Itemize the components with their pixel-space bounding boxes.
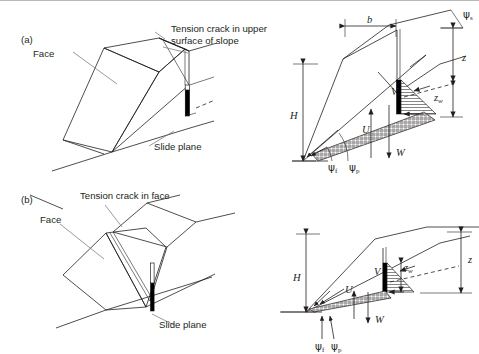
ground-line-left-a [63,140,104,154]
symbol-psi-p-a: ψp [349,161,360,175]
label-face-a: Face [33,48,54,59]
failure-surface-right-b [390,236,470,269]
label-slide-plane-b: Slide plane [159,319,206,330]
symbol-H-b: H [292,272,302,283]
z-extension-b [420,232,472,293]
ground-line-left-b [30,195,63,209]
leader-face-a [73,52,117,84]
symbol-psi-p-b: ψp [331,340,342,354]
ridge-line-b2 [196,213,235,222]
symbol-zw-b: zw [403,262,413,275]
symbol-b-a: b [367,14,372,25]
leader-tension-crack-b [105,205,122,227]
psi-p-arrow-b [330,316,334,339]
block-top-a [343,30,397,59]
slide-plane-line-a [52,152,112,171]
slide-plane-line-b [56,310,106,328]
crack-water-column-b [383,263,387,292]
panel-id-b: (b) [21,194,33,205]
slide-plane-line-b2 [106,277,212,310]
psi-s-angle-a [441,10,463,28]
panel-b-pictorial: (b) Face Tension crack in face Slide pla… [21,190,235,330]
block-mid-face-b [106,228,166,307]
symbol-U-b: U [345,284,354,295]
symbol-z-a: z [461,52,466,63]
label-tension-crack-b: Tension crack in face [80,190,170,201]
v-pressure-triangle-a [401,80,436,114]
block-upper-b [113,203,196,247]
tension-crack-open-a [185,85,189,90]
label-slide-plane-a: Slide plane [154,141,201,152]
panel-id-a: (a) [21,34,33,45]
slide-plane-dashed-a [196,100,215,108]
label-tension-crack-a-line2: surface of slope [171,35,239,46]
symbol-psi-s-a: ψs [463,8,473,22]
failure-plane-upper-a [410,55,426,67]
figure-root: (a) Face Slide plane Tension crack in up… [0,0,479,354]
symbol-W-a: W [396,147,406,158]
figure-canvas: (a) Face Slide plane Tension crack in up… [0,1,479,354]
symbol-psi-f-a: ψf [328,161,338,175]
symbol-psi-f-b: ψf [315,340,325,354]
water-table-dashed-b [390,266,459,282]
symbol-z-b: z [467,254,472,265]
symbol-W-b: W [375,314,385,325]
tension-crack-open-b [151,263,155,283]
panel-a-pictorial: (a) Face Slide plane Tension crack in up… [21,23,268,171]
crack-slab-b2 [113,232,153,300]
block-face-a [63,48,159,152]
crack-slab-b1 [110,233,150,301]
label-tension-crack-a-line1: Tension crack in upper [171,23,268,34]
tension-crack-fill-a [185,89,189,116]
panel-a-section: H b z zw V U W ψf ψp ψs [289,8,473,175]
symbol-V-b: V [374,266,382,277]
block-face-b [63,233,146,310]
tension-crack-fill-b [151,282,155,311]
label-face-b: Face [40,214,61,225]
panel-b-section: H z zw V U W ψf ψp [280,227,479,354]
slide-plane-line-b3 [146,274,215,307]
symbol-zw-a: zw [433,92,443,105]
symbol-H-a: H [289,110,299,121]
leader-tension-crack-a1 [155,32,165,39]
